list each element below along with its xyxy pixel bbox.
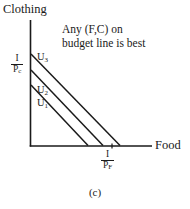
curve-label-u1-subscript: 1	[45, 102, 49, 110]
y-axis-intercept-label: I Pc	[11, 54, 23, 75]
fraction-i-over-pc: I Pc	[11, 54, 23, 74]
x-axis-title: Food	[155, 138, 181, 152]
fraction-numerator: I	[101, 150, 114, 160]
curve-label-u2-base: U	[37, 84, 45, 95]
fraction-i-over-pf: I PF	[101, 150, 114, 170]
annotation-line-1: Any (F,C) on	[62, 22, 145, 36]
annotation-line-2: budget line is best	[62, 36, 145, 50]
x-axis-intercept-label: I PF	[101, 150, 114, 171]
curve-label-u2-subscript: 2	[45, 89, 49, 97]
curve-label-u3-subscript: 3	[45, 56, 49, 64]
curve-label-u2: U2	[37, 84, 48, 96]
y-axis-title: Clothing	[3, 2, 47, 16]
fraction-numerator: I	[11, 54, 23, 64]
figure-caption: (c)	[0, 186, 190, 198]
annotation-note: Any (F,C) on budget line is best	[62, 22, 145, 51]
curve-label-u1: U1	[37, 97, 48, 109]
curve-label-u1-base: U	[37, 97, 45, 108]
fraction-denominator-subscript: F	[108, 163, 112, 171]
fraction-denominator: Pc	[11, 64, 23, 75]
budget-line-figure: Clothing Food Any (F,C) on budget line i…	[0, 0, 190, 209]
curve-label-u3: U3	[37, 51, 48, 63]
curve-label-u3-base: U	[37, 51, 45, 62]
fraction-denominator-subscript: c	[18, 67, 21, 75]
fraction-denominator: PF	[101, 160, 114, 171]
